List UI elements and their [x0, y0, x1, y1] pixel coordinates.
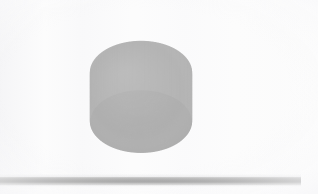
- render-viewport: [0, 0, 318, 194]
- render-stage: [0, 0, 318, 194]
- horizontal-rule-shadow: [0, 184, 301, 187]
- horizontal-rule: [0, 177, 301, 184]
- surface-plot-canvas: [0, 0, 318, 194]
